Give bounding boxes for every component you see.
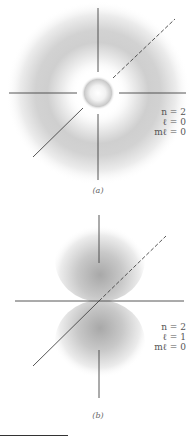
caption-a: (a)	[78, 186, 118, 195]
footnote-rule	[0, 435, 68, 436]
quantum-numbers-b: n = 2 ℓ = 1 mℓ = 0	[140, 322, 186, 352]
caption-b: (b)	[78, 411, 118, 420]
n-label: n = 2	[140, 107, 186, 117]
quantum-numbers-a: n = 2 ℓ = 0 mℓ = 0	[140, 107, 186, 137]
n-label: n = 2	[140, 322, 186, 332]
upper-lobe	[55, 218, 145, 302]
l-label: ℓ = 1	[140, 332, 186, 342]
orbital-figure-b: n = 2 ℓ = 1 mℓ = 0 (b)	[0, 210, 196, 435]
lower-lobe	[55, 300, 145, 384]
ml-label: mℓ = 0	[140, 342, 186, 352]
orbital-figure-a: n = 2 ℓ = 0 mℓ = 0 (a)	[0, 0, 196, 205]
l-label: ℓ = 0	[140, 117, 186, 127]
inner-density-core	[81, 76, 115, 110]
orbital-2s-diagram	[0, 0, 196, 205]
ml-label: mℓ = 0	[140, 127, 186, 137]
